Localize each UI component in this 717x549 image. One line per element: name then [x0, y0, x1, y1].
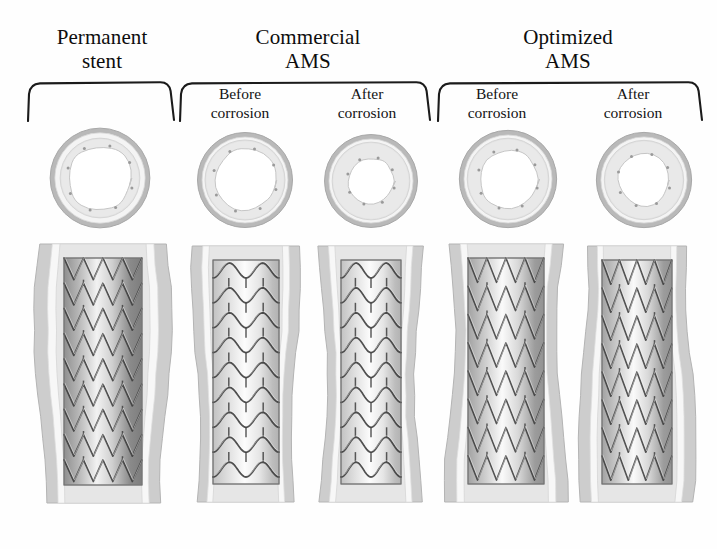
sub-label-commercial-after: After corrosion [312, 85, 422, 123]
cross-section-commercial-before [182, 130, 308, 230]
longitudinal-optimized-before [440, 238, 572, 512]
group-title-optimized-ams: Optimized AMS [478, 26, 658, 73]
longitudinal-permanent [28, 238, 178, 513]
cross-section-commercial-after [310, 132, 432, 230]
cross-section-optimized-before [440, 128, 576, 230]
bracket-permanent-stent [24, 80, 176, 122]
sub-label-optimized-after: After corrosion [578, 85, 688, 123]
group-title-commercial-ams: Commercial AMS [218, 26, 398, 73]
stent-comparison-figure: Permanent stent Commercial AMS Optimized… [0, 0, 717, 549]
longitudinal-commercial-before [186, 240, 306, 512]
cross-section-optimized-after [578, 130, 710, 230]
longitudinal-commercial-after [312, 240, 430, 512]
longitudinal-optimized-after [572, 240, 702, 512]
sub-label-commercial-before: Before corrosion [185, 85, 295, 123]
cross-section-permanent [24, 126, 176, 230]
sub-label-optimized-before: Before corrosion [442, 85, 552, 123]
group-title-permanent-stent: Permanent stent [22, 26, 182, 73]
